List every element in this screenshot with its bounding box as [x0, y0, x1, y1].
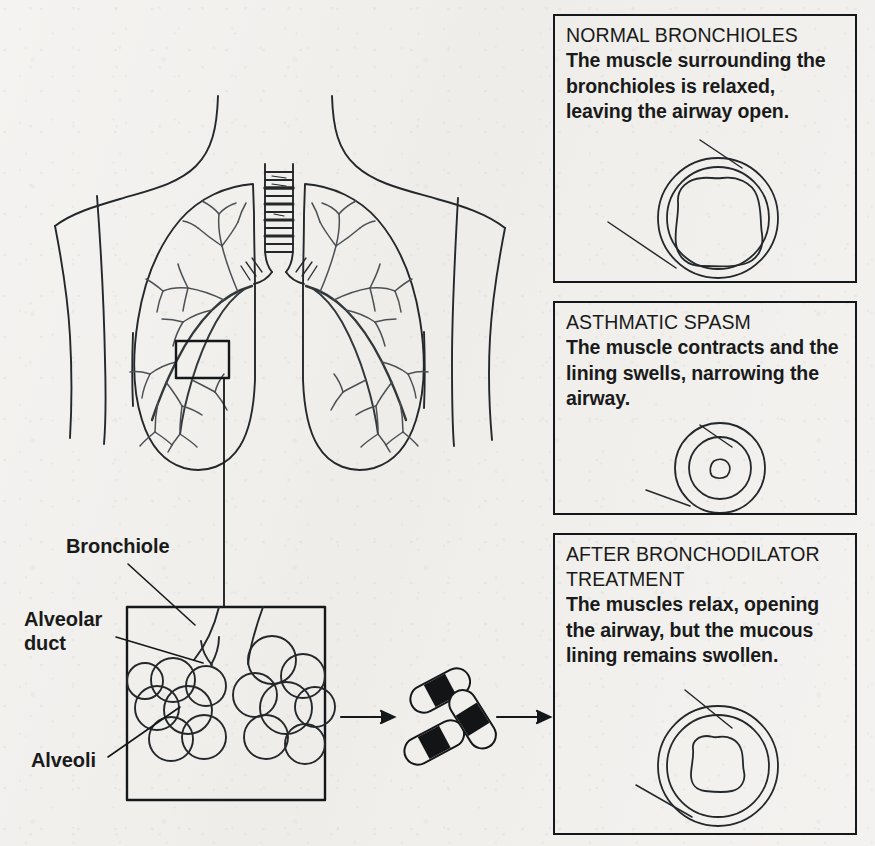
label-bronchiole: Bronchiole [66, 534, 169, 558]
lung-left-outline [134, 184, 255, 470]
panel-after-bronchodilator-treatment-text: AFTER BRONCHODILATOR TREATMENT The muscl… [566, 542, 849, 669]
panel-normal-bronchioles: NORMAL BRONCHIOLES The muscle surroundin… [553, 14, 857, 283]
panel-asthmatic-spasm-body: The muscle contracts and the lining swel… [566, 335, 849, 412]
bronchodilator-capsules [400, 663, 501, 769]
arrow-right-2 [497, 711, 550, 723]
panel-after-bronchodilator-treatment-title: AFTER BRONCHODILATOR TREATMENT [566, 542, 849, 592]
panel-after-bronchodilator-treatment-body: The muscles relax, opening the airway, b… [566, 592, 849, 669]
bronchial-tree-right [306, 201, 428, 452]
leader-bronchiole [128, 564, 195, 625]
panel-asthmatic-spasm-text: ASTHMATIC SPASM The muscle contracts and… [566, 310, 849, 412]
alveolar-duct-stem-left [194, 607, 219, 660]
human-torso-outline [55, 96, 505, 446]
alveoli-clusters [127, 607, 335, 764]
panel-normal-bronchioles-text: NORMAL BRONCHIOLES The muscle surroundin… [566, 23, 849, 125]
alveoli-cluster-right [233, 636, 335, 764]
panel-asthmatic-spasm-title: ASTHMATIC SPASM [566, 310, 849, 335]
trachea-with-cartilage-rings [241, 164, 317, 284]
arrow-right-1 [341, 711, 394, 723]
label-alveolar-duct: Alveolar duct [24, 607, 102, 655]
label-alveoli: Alveoli [31, 748, 96, 772]
panel-asthmatic-spasm: ASTHMATIC SPASM The muscle contracts and… [553, 301, 857, 515]
leader-alveoli [108, 707, 180, 757]
alveolar-duct-stem-right [248, 607, 263, 664]
bronchial-tree-left [130, 201, 252, 452]
panel-after-bronchodilator-treatment: AFTER BRONCHODILATOR TREATMENT The muscl… [553, 533, 857, 835]
panel-normal-bronchioles-title: NORMAL BRONCHIOLES [566, 23, 849, 48]
asthma-diagram-page: Bronchiole Alveolar duct Alveoli NORMAL … [0, 0, 875, 846]
label-leader-lines [108, 564, 203, 757]
lung-right-outline [303, 184, 424, 470]
panel-normal-bronchioles-body: The muscle surrounding the bronchioles i… [566, 48, 849, 125]
leader-alveolar-duct [116, 637, 203, 663]
